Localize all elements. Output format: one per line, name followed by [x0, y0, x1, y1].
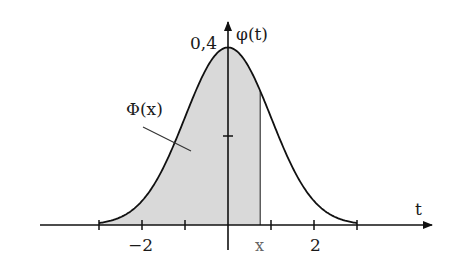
x-axis-title: t: [415, 199, 422, 219]
shaded-area-phi: [99, 47, 260, 225]
tick-label-2: 2: [310, 235, 321, 255]
y-axis-title: φ(t): [236, 24, 268, 44]
area-label: Φ(x): [126, 99, 163, 119]
tick-label-minus-2: −2: [128, 235, 153, 255]
normal-distribution-plot: φ(t) 0,4 Φ(x) t −2 2 x: [0, 0, 462, 280]
x-marker-label: x: [255, 236, 264, 255]
peak-value-label: 0,4: [190, 33, 217, 53]
chart-canvas: φ(t) 0,4 Φ(x) t −2 2 x: [0, 0, 462, 280]
